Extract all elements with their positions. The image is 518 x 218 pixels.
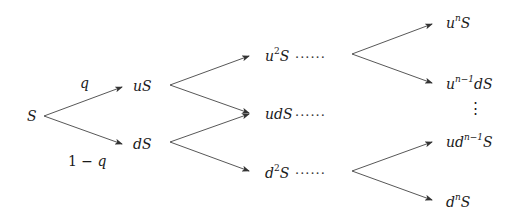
prob-down-label: 1 − q [68, 154, 107, 168]
node-d2S: d2S [265, 165, 289, 180]
edge-uS-udS [170, 85, 249, 113]
tree-edges [0, 0, 518, 218]
node-udn-1S: udn−1S [446, 134, 493, 149]
node-un-1dS: un−1dS [446, 76, 493, 91]
node-root: S [27, 109, 37, 123]
vertical-ellipsis: ⋮ [468, 101, 483, 116]
ellipsis-udS: ······ [295, 109, 326, 122]
edge-d2-udn1S [352, 142, 432, 171]
node-unS: unS [446, 15, 470, 30]
edge-dS-udS [170, 114, 249, 142]
edge-uS-u2S [170, 56, 249, 85]
node-u2S: u2S [265, 48, 289, 63]
node-dS: dS [133, 137, 152, 151]
edge-root-up [44, 87, 122, 116]
edge-u2-un1dS [352, 54, 432, 83]
node-dnS: dnS [446, 194, 470, 209]
ellipsis-u2S: ······ [295, 51, 326, 64]
edge-d2-dnS [352, 171, 432, 200]
prob-up-label: q [80, 76, 89, 90]
node-udS: udS [265, 107, 293, 121]
edge-root-down [44, 116, 122, 144]
edge-dS-d2S [170, 142, 249, 171]
ellipsis-d2S: ······ [295, 167, 326, 180]
node-uS: uS [133, 79, 152, 93]
edge-u2-unS [352, 24, 432, 54]
